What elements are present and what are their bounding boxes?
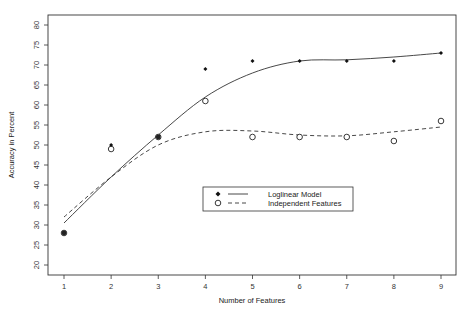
open-circle-point bbox=[108, 146, 114, 152]
x-tick-label: 3 bbox=[156, 282, 160, 291]
open-circle-point bbox=[203, 98, 209, 104]
diamond-point bbox=[298, 59, 302, 63]
x-tick-label: 8 bbox=[392, 282, 396, 291]
y-axis-title: Accuracy in Percent bbox=[7, 111, 16, 179]
x-tick-label: 4 bbox=[203, 282, 207, 291]
overlap-point bbox=[62, 231, 67, 236]
x-tick-label: 7 bbox=[345, 282, 349, 291]
y-tick-label: 25 bbox=[32, 241, 41, 249]
y-tick-label: 20 bbox=[32, 261, 41, 269]
open-circle-point bbox=[391, 138, 397, 144]
line-chart: 20253035404550556065707580 123456789 Num… bbox=[0, 0, 474, 319]
y-tick-label: 80 bbox=[32, 21, 41, 29]
x-tick-label: 9 bbox=[439, 282, 443, 291]
x-tick-label: 6 bbox=[298, 282, 302, 291]
y-tick-label: 30 bbox=[32, 221, 41, 229]
diamond-point bbox=[439, 51, 443, 55]
x-axis-title: Number of Features bbox=[219, 296, 286, 305]
legend-label-independent: Independent Features bbox=[268, 199, 342, 208]
y-tick-label: 35 bbox=[32, 201, 41, 209]
overlap-point bbox=[156, 135, 161, 140]
legend: Loglinear Model Independent Features bbox=[203, 187, 353, 211]
y-tick-label: 50 bbox=[32, 141, 41, 149]
y-axis: 20253035404550556065707580 bbox=[32, 21, 48, 269]
open-circle-point bbox=[250, 134, 256, 140]
x-tick-label: 1 bbox=[62, 282, 66, 291]
y-tick-label: 45 bbox=[32, 161, 41, 169]
diamond-point bbox=[392, 59, 396, 63]
y-tick-label: 70 bbox=[32, 61, 41, 69]
y-tick-label: 40 bbox=[32, 181, 41, 189]
open-circle-marker-icon bbox=[215, 200, 221, 206]
x-tick-label: 2 bbox=[109, 282, 113, 291]
y-tick-label: 65 bbox=[32, 81, 41, 89]
x-tick-label: 5 bbox=[250, 282, 254, 291]
y-tick-label: 75 bbox=[32, 41, 41, 49]
legend-label-loglinear: Loglinear Model bbox=[268, 190, 322, 199]
diamond-point bbox=[203, 67, 207, 71]
open-circle-point bbox=[297, 134, 303, 140]
open-circle-point bbox=[344, 134, 350, 140]
x-axis: 123456789 bbox=[62, 275, 443, 291]
y-tick-label: 60 bbox=[32, 101, 41, 109]
diamond-point bbox=[251, 59, 255, 63]
open-circle-point bbox=[438, 118, 444, 124]
y-tick-label: 55 bbox=[32, 121, 41, 129]
